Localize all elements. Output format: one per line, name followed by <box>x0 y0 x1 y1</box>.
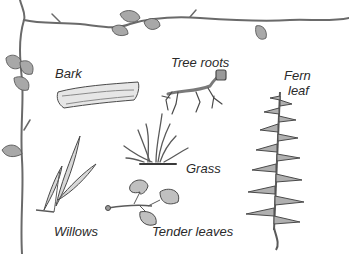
label-grass: Grass <box>186 162 221 176</box>
fern-leaf-illustration-icon <box>246 92 304 250</box>
plant-food-diagram: Bark Tree roots Fern leaf Grass Willows … <box>0 0 349 254</box>
illustration-layer <box>0 0 349 254</box>
label-tree-roots: Tree roots <box>171 56 229 70</box>
label-willows: Willows <box>54 225 98 239</box>
label-tender-leaves: Tender leaves <box>152 225 233 239</box>
grass-illustration-icon <box>124 114 188 164</box>
label-bark: Bark <box>55 67 82 81</box>
vine-border-icon <box>20 0 349 254</box>
label-fern-leaf-line2: leaf <box>288 84 309 98</box>
willows-illustration-icon <box>36 136 96 212</box>
tender-leaves-illustration-icon <box>106 180 179 225</box>
label-fern-leaf-line1: Fern <box>284 69 311 83</box>
tree-roots-illustration-icon <box>162 70 226 114</box>
bark-illustration-icon <box>57 82 139 108</box>
